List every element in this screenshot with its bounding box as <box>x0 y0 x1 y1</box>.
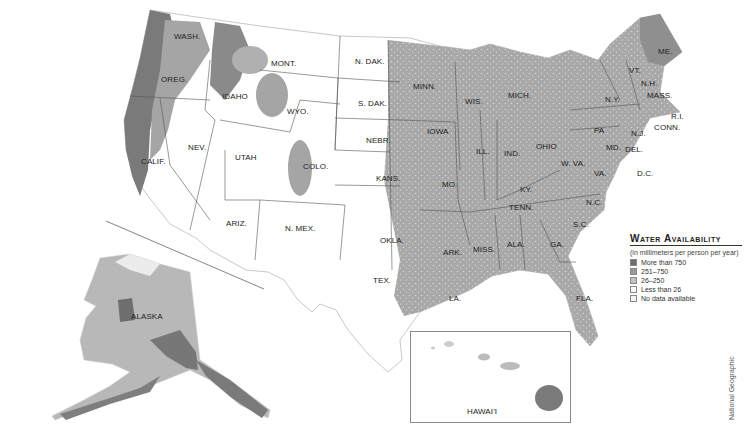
legend-item: Less than 26 <box>630 286 742 293</box>
state-label: WIS. <box>465 98 483 106</box>
state-label: N. DAK. <box>355 58 385 66</box>
state-label: FLA. <box>576 295 593 303</box>
state-label: CALIF. <box>141 158 166 166</box>
state-label: R.I. <box>671 113 684 121</box>
state-label: COLO. <box>303 163 328 171</box>
state-label: N.C. <box>586 199 602 207</box>
state-label: CONN. <box>654 124 680 132</box>
state-label: MINN. <box>413 83 436 91</box>
state-label: LA. <box>449 295 461 303</box>
state-label: IND. <box>504 150 520 158</box>
legend-label: 26–250 <box>641 277 664 284</box>
legend-item: 251–750 <box>630 268 742 275</box>
state-label: GA. <box>550 241 564 249</box>
legend-swatch <box>630 295 637 302</box>
state-label: ARK. <box>443 249 462 257</box>
state-label: N.H. <box>641 80 657 88</box>
state-label: TEX. <box>373 277 391 285</box>
state-label: WASH. <box>174 33 200 41</box>
state-label: ALASKA <box>131 313 163 321</box>
state-label: W. VA. <box>561 160 585 168</box>
legend-label: 251–750 <box>641 268 668 275</box>
state-label: DEL. <box>625 146 643 154</box>
state-label: N.J. <box>631 130 646 138</box>
state-label: MONT. <box>271 60 296 68</box>
state-label: OKLA. <box>380 237 404 245</box>
state-label: WYO. <box>287 108 309 116</box>
state-label: HAWAI'I <box>467 408 497 416</box>
legend-swatch <box>630 277 637 284</box>
state-label: PA <box>594 127 604 135</box>
state-label: VT. <box>629 67 641 75</box>
state-label: N. MEX. <box>285 225 315 233</box>
state-label: ILL. <box>476 148 490 156</box>
legend-items: More than 750251–75026–250Less than 26No… <box>630 259 742 302</box>
legend-label: No data available <box>641 295 695 302</box>
legend-item: More than 750 <box>630 259 742 266</box>
state-label: ME. <box>658 48 673 56</box>
wyoming-shading <box>256 73 288 117</box>
state-label: VA. <box>594 170 607 178</box>
legend: Water Availability (in millimeters per p… <box>630 233 742 302</box>
legend-swatch <box>630 268 637 275</box>
state-label: IDAHO <box>222 93 248 101</box>
credit-text: National Geographic <box>728 356 735 420</box>
state-label: MO. <box>442 181 457 189</box>
state-label: OHIO <box>536 143 557 151</box>
legend-title: Water Availability <box>630 233 742 246</box>
idaho-shading <box>232 46 268 74</box>
state-label: NEV. <box>188 144 206 152</box>
state-label: ALA. <box>507 241 525 249</box>
legend-swatch <box>630 286 637 293</box>
state-label: MICH. <box>508 92 531 100</box>
state-label: D.C. <box>637 170 653 178</box>
state-label: MISS. <box>473 246 495 254</box>
state-label: KY. <box>520 186 532 194</box>
legend-subtitle: (in millimeters per person per year) <box>630 249 742 257</box>
state-label: S.C. <box>573 221 589 229</box>
alaska <box>52 254 270 420</box>
state-label: IOWA <box>427 128 448 136</box>
legend-label: More than 750 <box>641 259 686 266</box>
legend-item: 26–250 <box>630 277 742 284</box>
state-label: MASS. <box>647 92 672 100</box>
legend-item: No data available <box>630 295 742 302</box>
state-label: ARIZ. <box>226 220 247 228</box>
state-label: OREG. <box>161 76 187 84</box>
legend-swatch <box>630 259 637 266</box>
state-label: NEBR. <box>366 137 391 145</box>
legend-label: Less than 26 <box>641 286 681 293</box>
state-label: UTAH <box>235 154 257 162</box>
state-label: TENN. <box>509 204 534 212</box>
state-label: KANS. <box>376 175 401 183</box>
state-label: N.Y. <box>605 96 620 104</box>
state-label: MD. <box>606 144 621 152</box>
state-label: S. DAK. <box>358 100 387 108</box>
